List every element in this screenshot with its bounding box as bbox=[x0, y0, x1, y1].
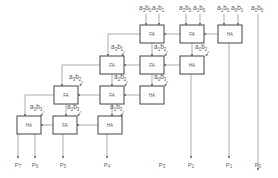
wire bbox=[125, 81, 128, 86]
cell-type-label: HA bbox=[189, 63, 195, 68]
full-adder-cell: FA bbox=[100, 56, 124, 74]
half-adder-cell: HA bbox=[140, 86, 164, 104]
product-bit-label: P1 bbox=[226, 162, 233, 169]
partial-product-label: a2b2 bbox=[114, 73, 127, 82]
partial-product-label: a1b2 bbox=[154, 43, 167, 52]
input-label: a2b1 bbox=[152, 4, 165, 13]
wire bbox=[41, 111, 44, 116]
product-bit-label: P5 bbox=[60, 162, 67, 169]
array-multiplier-diagram: FAFAHAFAFAHAFAFAHAHAFAHA a3b0a2b1a2b0a1b… bbox=[0, 0, 278, 178]
cell-type-label: FA bbox=[109, 63, 115, 68]
wire bbox=[80, 81, 83, 86]
input-label: a2b0 bbox=[179, 4, 192, 13]
product-bit-label: P7 bbox=[15, 162, 22, 169]
wire bbox=[121, 111, 124, 116]
wire bbox=[122, 51, 125, 56]
input-label: a1b0 bbox=[193, 4, 206, 13]
cell-type-label: HA bbox=[227, 32, 233, 37]
product-bit-label: P2 bbox=[188, 162, 195, 169]
wire bbox=[78, 111, 81, 116]
adder-cells: FAFAHAFAFAHAFAFAHAHAFAHA bbox=[17, 25, 242, 134]
product-bit-label: P4 bbox=[104, 162, 111, 169]
wire bbox=[62, 65, 100, 86]
half-adder-cell: HA bbox=[98, 116, 122, 134]
input-label: a0b0 bbox=[251, 4, 264, 13]
input-label: a3b0 bbox=[139, 4, 152, 13]
partial-product-label: a0b2 bbox=[195, 43, 208, 52]
input-label: a0b1 bbox=[231, 4, 244, 13]
full-adder-cell: FA bbox=[140, 56, 164, 74]
cell-type-label: FA bbox=[189, 32, 195, 37]
product-bit-label: P0 bbox=[255, 162, 262, 169]
partial-product-label: a0b3 bbox=[154, 73, 167, 82]
half-adder-cell: HA bbox=[218, 25, 242, 43]
wire bbox=[206, 51, 209, 56]
full-adder-cell: FA bbox=[54, 86, 78, 104]
input-label: a1b0 bbox=[217, 4, 230, 13]
output-labels: P7P6P5P4P3P2P1P0 bbox=[15, 162, 262, 169]
product-bit-label: P3 bbox=[159, 162, 166, 169]
cell-type-label: FA bbox=[63, 93, 69, 98]
cell-type-label: FA bbox=[149, 32, 155, 37]
cell-type-label: HA bbox=[149, 93, 155, 98]
partial-product-label: a3b2 bbox=[69, 73, 82, 82]
cell-type-label: HA bbox=[107, 123, 113, 128]
half-adder-cell: HA bbox=[17, 116, 41, 134]
cell-type-label: FA bbox=[149, 63, 155, 68]
partial-product-label: a3b1 bbox=[111, 43, 124, 52]
full-adder-cell: FA bbox=[53, 116, 77, 134]
product-bit-label: P6 bbox=[32, 162, 39, 169]
cell-type-label: FA bbox=[109, 93, 115, 98]
cell-type-label: FA bbox=[62, 123, 68, 128]
full-adder-cell: FA bbox=[100, 86, 124, 104]
cell-type-label: HA bbox=[26, 123, 32, 128]
half-adder-cell: HA bbox=[180, 56, 204, 74]
wire bbox=[165, 81, 168, 86]
full-adder-cell: FA bbox=[140, 25, 164, 43]
wire bbox=[165, 51, 168, 56]
full-adder-cell: FA bbox=[180, 25, 204, 43]
partial-product-label: a3b3 bbox=[30, 103, 43, 112]
